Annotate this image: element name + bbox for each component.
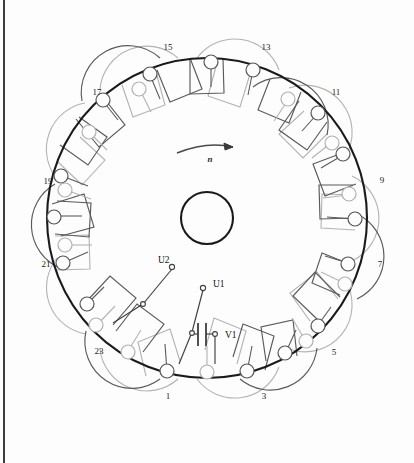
main-endturn-arc: [31, 184, 60, 268]
terminal-node-v1[interactable]: [213, 332, 218, 337]
terminal-label-u1: U1: [213, 279, 225, 289]
main-coil: [233, 324, 274, 370]
terminal-label-v1: V1: [225, 330, 237, 340]
main-endturn-arc: [85, 331, 160, 388]
rotation-direction-label: n: [207, 154, 212, 164]
page-left-rule: [3, 0, 5, 463]
terminal-label-u2: U2: [158, 255, 170, 265]
slot-circle-aux: [132, 82, 146, 96]
u2-lead: [143, 269, 172, 304]
slot-circle-aux: [121, 345, 135, 359]
slot-circle: [311, 106, 325, 120]
slot-circle-aux: [82, 125, 96, 139]
slot-circle-aux: [299, 334, 313, 348]
stator-winding-diagram: 1 3 5 7 9 11 13 15 17 19 21 23 U1 U2 V1 …: [0, 0, 414, 463]
slot-circle-aux: [58, 238, 72, 252]
rotor-shaft-circle: [181, 192, 233, 244]
slot-number: 19: [44, 176, 54, 186]
slot-number: 11: [332, 87, 341, 97]
terminal-node-v1-junction[interactable]: [190, 331, 195, 336]
slot-number: 5: [332, 347, 337, 357]
slot-circle: [143, 67, 157, 81]
aux-endturn-arc: [289, 85, 352, 157]
slot-number: 9: [380, 175, 385, 185]
slot-circle-aux: [89, 318, 103, 332]
slot-number: 23: [95, 346, 105, 356]
slot-circle: [80, 297, 94, 311]
slot-circle-aux: [338, 277, 352, 291]
slot-circle: [341, 257, 355, 271]
main-coil: [293, 272, 340, 320]
terminal-node-u2-junction: [141, 302, 146, 307]
slot-circle: [54, 169, 68, 183]
slot-number: 17: [93, 87, 103, 97]
main-coil: [116, 304, 164, 352]
terminal-node-u2[interactable]: [169, 264, 174, 269]
slot-number: 15: [164, 42, 174, 52]
main-endturn-arc: [357, 214, 384, 299]
slot-circle-aux: [342, 187, 356, 201]
slot-number-labels: 1 3 5 7 9 11 13 15 17 19 21 23: [42, 42, 385, 401]
rotation-arrow-head-icon: [224, 143, 233, 150]
aux-coil: [205, 318, 246, 364]
slot-circle: [47, 210, 61, 224]
slot-circle: [160, 364, 174, 378]
slot-number: 7: [378, 259, 383, 269]
slot-circle: [246, 63, 260, 77]
u1-lead-lower: [179, 332, 192, 364]
slot-circle: [204, 55, 218, 69]
slot-circle: [336, 147, 350, 161]
slot-circle-aux: [281, 92, 295, 106]
terminal-node-u1[interactable]: [200, 285, 205, 290]
slot-number: 3: [262, 391, 267, 401]
slot-number: 21: [42, 259, 51, 269]
slot-circle: [278, 346, 292, 360]
slot-circle: [56, 256, 70, 270]
aux-coil: [208, 63, 250, 107]
slot-number: 13: [262, 42, 272, 52]
slot-circle: [311, 319, 325, 333]
slot-circle-aux: [200, 365, 214, 379]
aux-coil: [290, 272, 338, 321]
slot-circle-aux: [325, 136, 339, 150]
rotation-arrow: [177, 143, 233, 153]
slot-circle-aux: [58, 183, 72, 197]
diagram-page: 1 3 5 7 9 11 13 15 17 19 21 23 U1 U2 V1 …: [0, 0, 414, 463]
slot-circle: [348, 212, 362, 226]
slot-number: 1: [166, 391, 171, 401]
slot-circle: [240, 364, 254, 378]
